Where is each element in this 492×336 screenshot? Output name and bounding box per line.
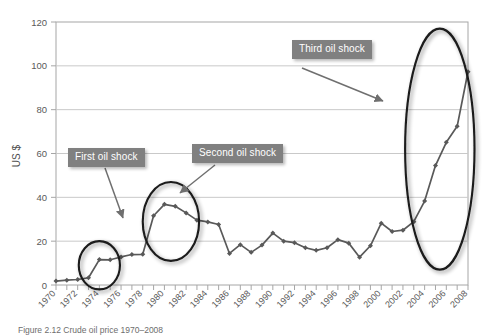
y-tick-label: 120 xyxy=(31,17,47,28)
x-tick-label: 1996 xyxy=(318,288,339,309)
x-axis-ticks xyxy=(56,285,468,290)
figure-caption: Figure 2.12 Crude oil price 1970–2008 xyxy=(18,325,163,335)
x-tick-label: 1978 xyxy=(123,288,144,309)
x-tick-label: 2008 xyxy=(448,288,469,309)
annotation-first-oil-shock: First oil shock xyxy=(68,148,145,167)
x-tick-label: 1976 xyxy=(101,288,122,309)
y-axis-tick-labels: 120 100 80 60 40 20 0 xyxy=(31,17,47,291)
y-tick-label: 40 xyxy=(36,192,47,203)
y-tick-label: 20 xyxy=(36,236,47,247)
y-tick-label: 80 xyxy=(36,104,47,115)
x-tick-label: 2004 xyxy=(405,288,426,309)
x-tick-label: 1974 xyxy=(80,288,101,309)
x-tick-label: 1988 xyxy=(231,288,252,309)
y-tick-label: 60 xyxy=(36,148,47,159)
x-tick-label: 1986 xyxy=(210,288,231,309)
x-tick-label: 1990 xyxy=(253,288,274,309)
x-tick-label: 1972 xyxy=(58,288,79,309)
figure-container: 120 100 80 60 40 20 0 US $ 1970197219741… xyxy=(0,0,492,336)
x-tick-label: 2000 xyxy=(361,288,382,309)
x-tick-label: 1970 xyxy=(36,288,57,309)
annotation-second-oil-shock: Second oil shock xyxy=(192,144,283,163)
x-tick-label: 1982 xyxy=(166,288,187,309)
x-tick-label: 1980 xyxy=(145,288,166,309)
x-tick-label: 1998 xyxy=(340,288,361,309)
x-axis-tick-labels: 1970197219741976197819801982198419861988… xyxy=(36,288,469,309)
x-tick-label: 1994 xyxy=(296,288,317,309)
x-tick-label: 1984 xyxy=(188,288,209,309)
x-tick-label: 1992 xyxy=(275,288,296,309)
y-axis-title: US $ xyxy=(11,144,22,167)
x-tick-label: 2006 xyxy=(426,288,447,309)
y-tick-label: 0 xyxy=(42,280,47,291)
annotation-third-oil-shock: Third oil shock xyxy=(292,40,372,59)
x-tick-label: 2002 xyxy=(383,288,404,309)
y-tick-label: 100 xyxy=(31,60,47,71)
oil-price-line-chart: 120 100 80 60 40 20 0 US $ 1970197219741… xyxy=(0,0,492,336)
y-axis-ticks xyxy=(51,22,56,285)
